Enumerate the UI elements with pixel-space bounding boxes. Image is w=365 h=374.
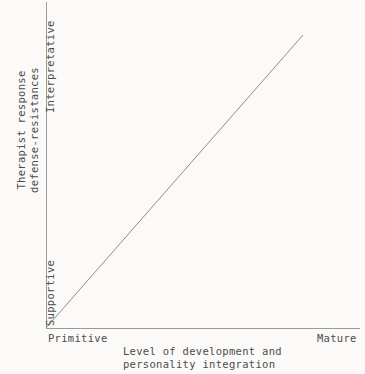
x-axis-title: Level of development and personality int… <box>123 345 282 370</box>
y-axis-title-line-2: defense-resistances <box>28 15 41 245</box>
y-axis-tick-label-interpretative: Interpretative <box>44 20 56 113</box>
y-axis-title-line-1: Therapist response <box>15 15 28 245</box>
x-axis-title-line-1: Level of development and <box>123 345 282 358</box>
y-axis-title: Therapist response defense-resistances <box>15 15 41 245</box>
x-axis-tick-label-mature: Mature <box>317 332 357 344</box>
data-series-line <box>46 35 303 328</box>
x-axis-tick-label-primitive: Primitive <box>48 332 108 344</box>
y-axis-tick-label-supportive: Supportive <box>44 260 56 326</box>
chart-figure: Therapist response defense-resistances I… <box>0 0 365 374</box>
x-axis-title-line-2: personality integration <box>123 358 282 371</box>
x-axis-line <box>46 328 360 329</box>
